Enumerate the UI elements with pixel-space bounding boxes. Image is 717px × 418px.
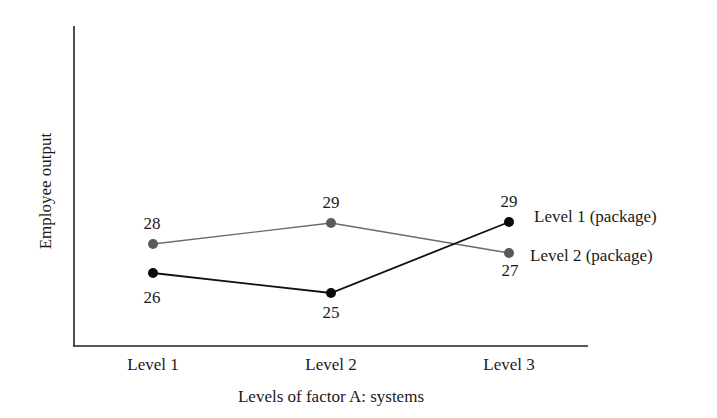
data-point-s2-level-1 [148, 239, 158, 249]
series-line-level-1-package [153, 222, 509, 293]
data-label-s2-level-2: 29 [323, 193, 340, 212]
data-label-s1-level-2: 25 [323, 303, 340, 322]
data-label-s2-level-1: 28 [144, 214, 161, 233]
data-point-s1-level-3 [504, 217, 514, 227]
legend-label-level-1-package: Level 1 (package) [534, 207, 657, 226]
data-label-s1-level-1: 26 [144, 288, 161, 307]
x-tick-label-level-3: Level 3 [483, 355, 534, 374]
data-point-s1-level-2 [326, 288, 336, 298]
data-point-s2-level-3 [504, 248, 514, 258]
data-point-s1-level-1 [148, 268, 158, 278]
x-tick-label-level-2: Level 2 [305, 355, 356, 374]
x-axis-title: Levels of factor A: systems [238, 387, 424, 406]
data-label-s1-level-3: 29 [501, 192, 518, 211]
y-axis-title: Employee output [36, 132, 55, 249]
legend-label-level-2-package: Level 2 (package) [530, 246, 653, 265]
interaction-line-chart: Employee output Level 1 Level 2 Level 3 … [0, 0, 717, 418]
data-label-s2-level-3: 27 [502, 261, 520, 280]
data-point-s2-level-2 [326, 218, 336, 228]
x-tick-label-level-1: Level 1 [127, 355, 178, 374]
